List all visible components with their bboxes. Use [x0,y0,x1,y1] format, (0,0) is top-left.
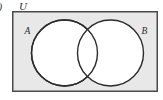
venn-diagram-canvas: ) U A B [0,0,163,100]
venn-diagram-figure: ) U A B [0,0,163,100]
universal-set-label: U [19,0,28,12]
list-item-marker: ) [0,0,3,13]
set-a-label: A [24,26,31,36]
set-b-label: B [142,26,148,36]
